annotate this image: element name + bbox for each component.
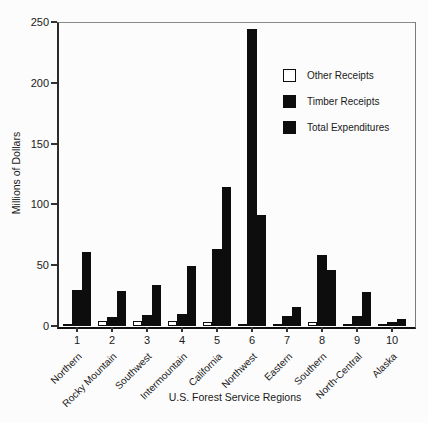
x-axis-tick [321,327,323,332]
bar-timber-receipts-region-4 [177,314,187,326]
bar-total-expenditures-region-4 [187,266,197,326]
y-axis-tick-label: 150 [18,137,49,151]
x-axis-tick [181,327,183,332]
bar-other-receipts-region-1 [63,324,73,326]
x-axis-tick [146,327,148,332]
y-axis-title: Millions of Dollars [9,103,23,243]
x-axis-tick-label: 7 [272,334,302,347]
bar-total-expenditures-region-6 [257,215,267,326]
x-axis-tick-label: 3 [132,334,162,347]
x-axis-tick [111,327,113,332]
bar-total-expenditures-region-7 [292,307,302,326]
bar-other-receipts-region-10 [378,324,388,326]
y-axis-tick-label: 0 [18,319,49,333]
x-axis-tick-label: 9 [342,334,372,347]
bar-timber-receipts-region-6 [247,29,257,326]
y-axis-tick [51,325,57,327]
y-axis-tick [51,143,57,145]
bar-timber-receipts-region-8 [317,255,327,326]
x-axis-region-label: California [186,351,224,389]
bar-other-receipts-region-2 [98,321,108,326]
x-axis-tick [356,327,358,332]
y-axis-tick-label: 200 [18,76,49,90]
x-axis-tick-label: 6 [237,334,267,347]
y-axis-tick [51,82,57,84]
bar-other-receipts-region-4 [168,321,178,326]
legend-item: Other Receipts [283,69,389,82]
bar-chart: Millions of Dollars U.S. Forest Service … [0,0,428,423]
legend-label: Total Expenditures [307,122,389,133]
bar-total-expenditures-region-5 [222,187,232,326]
bar-total-expenditures-region-8 [327,270,337,326]
legend-label: Timber Receipts [307,96,379,107]
y-axis-tick [51,203,57,205]
x-axis-tick-label: 8 [307,334,337,347]
legend-swatch [283,121,296,134]
bar-timber-receipts-region-3 [142,315,152,326]
bar-timber-receipts-region-5 [212,249,222,326]
x-axis-tick [391,327,393,332]
x-axis-tick-label: 5 [202,334,232,347]
y-axis-tick-label: 100 [18,197,49,211]
bar-timber-receipts-region-10 [387,322,397,326]
bar-other-receipts-region-5 [203,322,213,326]
legend-label: Other Receipts [307,70,374,81]
x-axis-region-label: Eastern [262,351,294,383]
x-axis-tick [76,327,78,332]
x-axis-tick-label: 10 [377,334,407,347]
x-axis-region-label: Northern [49,351,84,386]
legend: Other ReceiptsTimber ReceiptsTotal Expen… [283,69,389,147]
bar-other-receipts-region-9 [343,324,353,326]
y-axis-tick-label: 50 [18,258,49,272]
y-axis-tick [51,264,57,266]
x-axis-tick-label: 4 [167,334,197,347]
y-axis-tick [51,21,57,23]
legend-swatch [283,69,296,82]
bar-other-receipts-region-3 [133,321,143,326]
bar-other-receipts-region-6 [238,324,248,326]
bar-other-receipts-region-7 [273,324,283,326]
x-axis-tick-label: 2 [97,334,127,347]
legend-swatch [283,95,296,108]
x-axis-tick [251,327,253,332]
x-axis-tick-label: 1 [62,334,92,347]
bar-timber-receipts-region-7 [282,316,292,326]
bar-total-expenditures-region-10 [397,319,407,326]
bar-other-receipts-region-8 [308,322,318,326]
x-axis-tick [286,327,288,332]
bar-timber-receipts-region-9 [352,316,362,326]
legend-item: Timber Receipts [283,95,389,108]
bar-total-expenditures-region-1 [82,252,92,326]
bar-total-expenditures-region-3 [152,285,162,326]
bar-timber-receipts-region-2 [107,317,117,326]
bar-timber-receipts-region-1 [72,290,82,326]
y-axis-tick-label: 250 [18,15,49,29]
x-axis-title: U.S. Forest Service Regions [57,391,413,404]
x-axis-region-label: Northwest [219,351,259,391]
bar-total-expenditures-region-9 [362,292,372,326]
x-axis-tick [216,327,218,332]
legend-item: Total Expenditures [283,121,389,134]
bar-total-expenditures-region-2 [117,291,127,326]
x-axis-region-label: Alaska [370,351,399,380]
